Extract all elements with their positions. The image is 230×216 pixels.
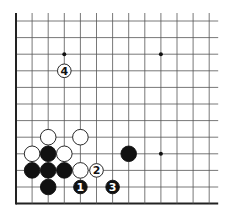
stone-move-number: 1 — [77, 181, 85, 194]
star-point — [62, 52, 66, 56]
black-stone-3: 3 — [106, 180, 120, 194]
white-stone-4: 4 — [58, 64, 72, 78]
white-stone-2: 2 — [90, 164, 104, 178]
star-point — [159, 52, 163, 56]
stone-move-number: 3 — [109, 181, 117, 194]
white-stone — [57, 146, 73, 162]
black-stone — [40, 146, 56, 162]
white-stone — [73, 129, 89, 145]
white-stone — [40, 129, 56, 145]
star-point — [159, 152, 163, 156]
black-stone — [40, 179, 56, 195]
stone-move-number: 4 — [60, 65, 68, 78]
white-stone — [24, 146, 40, 162]
white-stone — [73, 163, 89, 179]
black-stone — [121, 146, 137, 162]
black-stone — [57, 163, 73, 179]
go-board: 2134 — [0, 0, 230, 216]
black-stone-1: 1 — [74, 180, 88, 194]
stone-move-number: 2 — [93, 164, 101, 177]
black-stone — [40, 163, 56, 179]
black-stone — [24, 163, 40, 179]
